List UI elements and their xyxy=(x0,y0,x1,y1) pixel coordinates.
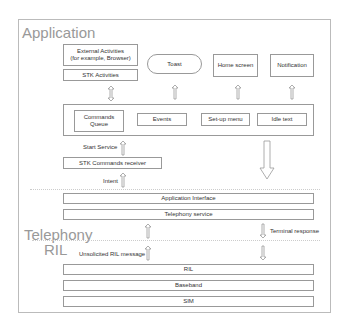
idle-text-label: Idle text xyxy=(271,116,292,123)
separator-telephony-ril xyxy=(32,240,320,241)
toast-box: Toast xyxy=(147,54,202,74)
up-arrow-icon xyxy=(287,84,297,100)
telephony-service-box: Telephony service xyxy=(63,209,314,220)
commands-queue-line1: Commands xyxy=(84,114,115,121)
notification-box: Notification xyxy=(270,54,314,77)
stk-commands-receiver-box: STK Commands receiver xyxy=(63,157,162,169)
ril-label: RIL xyxy=(184,266,193,273)
setup-menu-box: Set-up menu xyxy=(201,113,250,126)
separator-application-telephony xyxy=(30,189,320,190)
up-arrow-icon xyxy=(233,84,243,100)
application-interface-box: Application Interface xyxy=(63,193,314,204)
stk-commands-receiver-label: STK Commands receiver xyxy=(79,160,146,167)
layer-label-application: Application xyxy=(22,24,95,41)
up-arrow-icon xyxy=(170,84,180,100)
up-arrow-icon xyxy=(118,140,128,156)
notification-label: Notification xyxy=(277,62,307,69)
home-screen-box: Home screen xyxy=(213,54,258,77)
up-arrow-icon xyxy=(143,245,153,261)
commands-queue-line2: Queue xyxy=(90,121,108,128)
intent-label: Intent xyxy=(103,178,118,184)
telephony-service-label: Telephony service xyxy=(164,211,212,218)
external-activities-line1: External Activities xyxy=(77,48,124,55)
ril-box: RIL xyxy=(63,264,314,275)
stk-activities-label: STK Activities xyxy=(82,72,119,79)
large-down-arrow-icon xyxy=(259,140,275,180)
up-arrow-icon xyxy=(143,223,153,239)
layer-label-ril: RIL xyxy=(44,241,67,258)
baseband-label: Baseband xyxy=(175,282,202,289)
external-activities-box: External Activities (for example, Browse… xyxy=(63,44,138,66)
baseband-box: Baseband xyxy=(63,280,314,291)
home-screen-label: Home screen xyxy=(218,62,254,69)
events-box: Events xyxy=(137,113,187,126)
events-label: Events xyxy=(153,116,171,123)
sim-box: SIM xyxy=(63,296,314,307)
commands-queue-box: Commands Queue xyxy=(74,110,124,132)
sim-label: SIM xyxy=(183,298,194,305)
double-arrow-icon xyxy=(106,85,116,102)
terminal-response-label: Terminal response xyxy=(270,228,319,234)
setup-menu-label: Set-up menu xyxy=(208,116,242,123)
application-interface-label: Application Interface xyxy=(161,195,215,202)
down-arrow-icon xyxy=(258,245,268,261)
stk-activities-box: STK Activities xyxy=(63,69,138,81)
unsolicited-ril-message-label: Unsolicited RIL message xyxy=(79,251,145,257)
idle-text-box: Idle text xyxy=(257,113,307,126)
start-service-label: Start Service xyxy=(83,144,117,150)
external-activities-line2: (for example, Browser) xyxy=(70,55,131,62)
down-arrow-icon xyxy=(258,223,268,239)
toast-label: Toast xyxy=(167,61,181,68)
up-arrow-icon xyxy=(118,172,128,188)
